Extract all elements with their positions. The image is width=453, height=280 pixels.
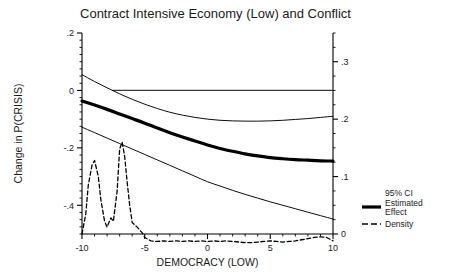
series-95-ci-lower bbox=[82, 127, 333, 219]
chart-figure: Contract Intensive Economy (Low) and Con… bbox=[0, 0, 453, 280]
legend-label-estimated-effect-2: Effect bbox=[385, 207, 407, 217]
x-tick-label: 0 bbox=[205, 243, 210, 253]
y-tick-label: -.4 bbox=[63, 201, 74, 211]
x-tick-label: 5 bbox=[268, 243, 273, 253]
x-tick-label: 10 bbox=[328, 243, 338, 253]
legend-label-density: Density bbox=[385, 219, 414, 229]
y2-tick-label: .2 bbox=[341, 114, 349, 124]
y2-tick-label: .1 bbox=[341, 172, 349, 182]
y2-tick-label: 0 bbox=[341, 229, 346, 239]
series-density bbox=[82, 142, 333, 243]
y2-tick-label: .3 bbox=[341, 57, 349, 67]
y-tick-label: -.2 bbox=[63, 143, 74, 153]
legend-label-95-ci: 95% CI bbox=[385, 188, 413, 198]
y-axis-label: Change in P(CRISIS) bbox=[12, 84, 24, 184]
chart-title: Contract Intensive Economy (Low) and Con… bbox=[80, 6, 351, 21]
x-tick-label: -5 bbox=[141, 243, 149, 253]
x-axis-label: DEMOCRACY (LOW) bbox=[157, 256, 259, 268]
y-tick-label: .2 bbox=[66, 28, 74, 38]
y-tick-label: 0 bbox=[69, 86, 74, 96]
conflict-line-chart: Contract Intensive Economy (Low) and Con… bbox=[0, 0, 453, 280]
x-tick-label: -10 bbox=[75, 243, 88, 253]
